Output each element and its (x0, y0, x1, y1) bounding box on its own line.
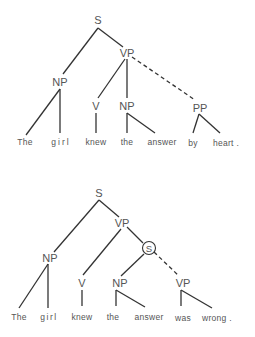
node-s: S (95, 187, 102, 199)
edge-s-np-emb (121, 254, 144, 276)
edge-np-answer (127, 113, 155, 133)
node-np-embedded: NP (112, 277, 127, 289)
edge-vp-v (98, 59, 125, 98)
edge-s-vp (99, 200, 119, 217)
node-s-embedded: S (146, 243, 152, 254)
word: the (121, 137, 134, 147)
word: girl (40, 312, 57, 322)
tree-bottom: S VP NP V S NP VP The girl knew the answ… (11, 187, 232, 323)
edge-s-np (63, 28, 98, 74)
node-vp: VP (120, 47, 135, 59)
edge-vp-wrong (181, 290, 212, 308)
word: knew (71, 312, 93, 322)
word: answer (134, 312, 163, 322)
node-np-object: NP (119, 100, 134, 112)
edge-np-the (19, 264, 48, 308)
node-v: V (78, 277, 86, 289)
word: answer (147, 137, 176, 147)
tree-top: S VP NP V NP PP The girl knew the answer… (17, 14, 239, 148)
edge-vp-s (127, 227, 143, 243)
word: The (11, 312, 27, 322)
edge-s-vp-dashed (154, 252, 179, 276)
edge-np-answer (116, 290, 145, 307)
syntax-tree-diagrams: S VP NP V NP PP The girl knew the answer… (0, 0, 255, 337)
node-pp: PP (193, 102, 208, 114)
word: girl (51, 137, 70, 147)
word: wrong . (201, 313, 232, 323)
node-vp: VP (115, 217, 130, 229)
word: the (107, 312, 120, 322)
edge-s-vp (98, 28, 123, 47)
node-v: V (92, 100, 100, 112)
edge-vp-pp-dashed (132, 57, 195, 100)
node-np-subject: NP (52, 76, 67, 88)
word: heart . (213, 138, 239, 148)
word: knew (85, 137, 107, 147)
edge-pp-heart (199, 114, 220, 133)
node-np-subject: NP (42, 252, 57, 264)
word: by (188, 138, 198, 148)
edge-pp-by (193, 114, 199, 133)
word: was (174, 313, 191, 323)
node-vp-embedded: VP (176, 277, 191, 289)
word: The (17, 137, 33, 147)
edge-np-the (26, 89, 60, 135)
edge-vp-v (83, 229, 121, 275)
edge-s-np (54, 200, 99, 252)
node-s: S (94, 14, 101, 26)
